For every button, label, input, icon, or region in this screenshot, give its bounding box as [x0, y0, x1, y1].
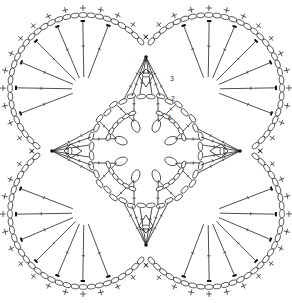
border-chain — [180, 15, 189, 22]
arch-chain — [126, 93, 136, 100]
treble-stitch — [184, 26, 204, 78]
border-chain — [221, 282, 230, 289]
arch-chain — [192, 169, 200, 179]
arch-chain — [174, 193, 184, 202]
treble-stitch — [219, 62, 271, 84]
border-chain — [62, 282, 71, 289]
lobe-north-west — [0, 5, 150, 155]
border-chain — [79, 13, 87, 18]
stitch-top-marker — [81, 280, 85, 282]
single-crochet-symbol — [277, 49, 285, 57]
stitch-top-marker — [19, 186, 22, 191]
single-crochet-symbol — [1, 193, 8, 200]
center-petal — [114, 155, 129, 167]
single-crochet-symbol — [142, 261, 150, 269]
inner-arches — [88, 93, 204, 209]
treble-stitch — [220, 88, 276, 89]
arch-chain — [137, 203, 146, 208]
stitch-top-marker — [275, 212, 277, 216]
arch-chain — [93, 169, 101, 179]
diamond-chain — [142, 225, 150, 229]
border-chain — [8, 218, 14, 227]
border-chain — [277, 193, 283, 202]
stitch-top-marker — [181, 275, 186, 278]
arch-chain — [156, 93, 166, 100]
diamond-points — [50, 55, 242, 247]
single-crochet-symbol — [80, 5, 86, 11]
single-crochet-symbol — [44, 12, 52, 20]
treble-stitch — [216, 221, 256, 261]
arch-chain — [89, 151, 94, 160]
center-petal — [150, 119, 162, 134]
treble-stitch — [36, 41, 76, 81]
center-petal — [163, 135, 178, 147]
border-chain — [95, 13, 104, 19]
border-chain — [196, 284, 205, 290]
single-crochet-symbol — [6, 175, 14, 183]
single-crochet-symbol — [2, 228, 9, 235]
treble-stitch — [88, 224, 108, 276]
diamond-chain — [220, 147, 224, 155]
stitch-top-marker — [20, 60, 24, 65]
single-crochet-symbol — [256, 147, 264, 155]
arch-chain — [156, 202, 166, 209]
border-chain — [205, 285, 213, 290]
border-chain — [213, 13, 222, 19]
border-chain — [70, 13, 79, 19]
single-crochet-symbol — [254, 21, 262, 29]
arch-chain — [146, 203, 155, 208]
border-chain — [188, 282, 197, 288]
border-chain — [62, 14, 71, 21]
single-crochet-symbol — [28, 147, 36, 155]
single-crochet-symbol — [286, 211, 292, 217]
single-crochet-symbol — [277, 244, 285, 252]
single-crochet-symbol — [15, 160, 23, 168]
treble-stitch — [208, 225, 209, 281]
treble-stitch — [220, 213, 276, 214]
single-crochet-symbol — [6, 119, 14, 127]
stitch-top-marker — [19, 111, 22, 116]
arch-chain — [180, 108, 189, 117]
treble-stitch — [57, 26, 79, 78]
border-chain — [280, 84, 285, 92]
single-crochet-symbol — [45, 282, 53, 290]
treble-stitch — [88, 26, 108, 78]
arch-chain — [109, 193, 119, 202]
treble-stitch — [219, 93, 271, 113]
treble-stitch — [184, 224, 204, 276]
arch-chain — [198, 142, 203, 151]
arch-chain — [126, 202, 136, 209]
single-crochet-symbol — [29, 272, 37, 280]
single-crochet-symbol — [278, 119, 286, 127]
stitch-top-marker — [55, 274, 60, 278]
arch-chain — [180, 185, 189, 194]
single-crochet-symbol — [283, 228, 290, 235]
single-crochet-symbol — [114, 283, 122, 291]
stitch-top-marker — [275, 86, 277, 90]
diamond-chain — [68, 147, 72, 155]
border-chain — [87, 284, 96, 290]
single-crochet-symbol — [267, 34, 275, 42]
south-point — [124, 203, 168, 247]
single-crochet-symbol — [240, 282, 248, 290]
single-crochet-symbol — [267, 259, 275, 267]
arch-chain — [188, 114, 197, 124]
single-crochet-symbol — [283, 67, 290, 74]
arch-chain — [197, 161, 204, 171]
single-crochet-symbol — [188, 6, 195, 13]
border-chain — [280, 210, 285, 218]
stitch-top-marker — [20, 237, 24, 242]
arch-chain — [192, 123, 200, 133]
stitch-top-marker — [269, 237, 273, 242]
border-chain — [277, 225, 284, 234]
stitch-top-marker — [269, 60, 273, 65]
border-chain — [8, 100, 14, 109]
arch-chain — [128, 110, 136, 116]
single-crochet-symbol — [206, 5, 212, 11]
crochet-chart-canvas: 1 2 3 4 — [0, 0, 292, 303]
round-label-4: 4 — [143, 56, 147, 63]
treble-stitch — [36, 221, 76, 261]
arch-chain — [174, 100, 184, 109]
border-chain — [71, 284, 80, 290]
border-chain — [8, 84, 13, 92]
